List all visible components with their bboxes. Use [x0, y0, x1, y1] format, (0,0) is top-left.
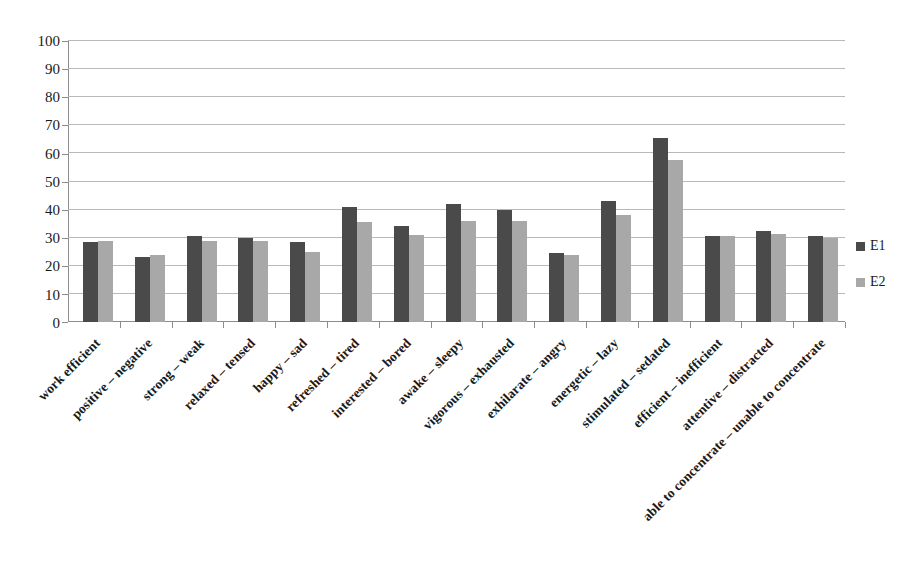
- bar-e1: [290, 242, 305, 322]
- bar-group: [83, 41, 113, 322]
- x-tick-mark: [379, 322, 380, 328]
- bar-group: [497, 41, 527, 322]
- bar-group: [705, 41, 735, 322]
- bar-e2: [512, 221, 527, 322]
- bar-e2: [668, 160, 683, 322]
- bar-e1: [705, 236, 720, 322]
- x-tick-mark: [638, 322, 639, 328]
- x-tick-mark: [275, 322, 276, 328]
- x-tick-mark: [172, 322, 173, 328]
- bar-e2: [253, 241, 268, 322]
- x-tick-mark: [793, 322, 794, 328]
- bar-e1: [808, 236, 823, 322]
- bar-e1: [238, 238, 253, 322]
- x-tick-mark: [534, 322, 535, 328]
- legend-item-e2: E2: [856, 264, 886, 300]
- bar-group: [187, 41, 217, 322]
- bar-group: [446, 41, 476, 322]
- bar-group: [653, 41, 683, 322]
- bar-e2: [564, 255, 579, 322]
- bar-group: [549, 41, 579, 322]
- bar-e1: [187, 236, 202, 322]
- x-tick-mark: [845, 322, 846, 328]
- y-tick-label: 100: [26, 34, 60, 49]
- y-tick-label: 10: [26, 288, 60, 303]
- bar-group: [808, 41, 838, 322]
- bar-e2: [202, 241, 217, 322]
- bar-e2: [305, 252, 320, 322]
- bar-e1: [601, 201, 616, 322]
- bar-e1: [394, 226, 409, 322]
- bar-e1: [653, 138, 668, 322]
- x-tick-mark: [482, 322, 483, 328]
- bar-group: [601, 41, 631, 322]
- bar-e2: [461, 221, 476, 322]
- x-tick-mark: [120, 322, 121, 328]
- bar-e1: [342, 207, 357, 322]
- bar-chart: 100 90 80 70 60 50 40 30 20 10 0 work ef…: [0, 0, 904, 576]
- bar-e1: [83, 242, 98, 322]
- legend-item-e1: E1: [856, 228, 886, 264]
- bar-e2: [771, 234, 786, 323]
- y-tick-label: 80: [26, 90, 60, 105]
- y-tick-label: 0: [26, 316, 60, 331]
- y-tick-label: 20: [26, 259, 60, 274]
- y-tick-label: 50: [26, 175, 60, 190]
- bar-e2: [616, 215, 631, 322]
- bar-group: [290, 41, 320, 322]
- bar-e2: [409, 235, 424, 322]
- plot-area: [68, 41, 845, 322]
- legend-swatch-icon: [856, 278, 865, 287]
- bar-group: [342, 41, 372, 322]
- bar-e2: [98, 241, 113, 322]
- bar-group: [756, 41, 786, 322]
- legend-label: E2: [870, 275, 886, 289]
- bar-e1: [497, 210, 512, 322]
- y-tick-label: 90: [26, 62, 60, 77]
- bar-group: [135, 41, 165, 322]
- x-tick-mark: [741, 322, 742, 328]
- bar-e2: [720, 236, 735, 322]
- x-tick-mark: [690, 322, 691, 328]
- y-tick-mark: [62, 322, 68, 323]
- y-tick-label: 30: [26, 231, 60, 246]
- x-tick-mark: [431, 322, 432, 328]
- bar-group: [394, 41, 424, 322]
- legend-swatch-icon: [856, 242, 865, 251]
- y-tick-label: 60: [26, 147, 60, 162]
- bar-e2: [357, 222, 372, 322]
- x-tick-mark: [327, 322, 328, 328]
- bar-e1: [549, 253, 564, 322]
- legend: E1 E2: [856, 228, 886, 300]
- bar-e1: [135, 257, 150, 322]
- x-tick-mark: [223, 322, 224, 328]
- y-tick-label: 70: [26, 118, 60, 133]
- bar-e1: [756, 231, 771, 322]
- bar-e2: [150, 255, 165, 322]
- bar-e2: [823, 238, 838, 322]
- bar-e1: [446, 204, 461, 322]
- bar-group: [238, 41, 268, 322]
- x-tick-mark: [586, 322, 587, 328]
- y-tick-label: 40: [26, 203, 60, 218]
- legend-label: E1: [870, 239, 886, 253]
